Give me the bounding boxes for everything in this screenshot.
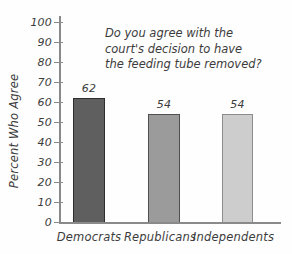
y-tick-mark: [54, 42, 63, 43]
y-tick-mark: [54, 122, 63, 123]
question-line-3: the feeding tube removed?: [105, 57, 262, 73]
y-tick-label: 100: [18, 16, 52, 29]
y-tick-label: 80: [18, 56, 52, 69]
bar-value-label: 62: [82, 82, 96, 95]
question-line-2: court's decision to have: [105, 42, 262, 58]
bar-value-label: 54: [157, 98, 171, 111]
x-category-label: Democrats: [57, 230, 122, 244]
y-tick-mark: [54, 102, 63, 103]
y-tick-mark: [54, 162, 63, 163]
y-tick-label: 30: [18, 156, 52, 169]
y-tick-label: 60: [18, 96, 52, 109]
chart-question: Do you agree with the court's decision t…: [105, 26, 262, 73]
y-tick-label: 70: [18, 76, 52, 89]
y-tick-mark: [54, 82, 63, 83]
x-category-label: Republicans: [124, 230, 196, 244]
y-tick-label: 0: [18, 216, 52, 229]
y-axis-title: Percent Who Agree: [7, 71, 21, 191]
bar-chart-figure: Percent Who Agree Do you agree with the …: [0, 0, 292, 254]
y-tick-mark: [54, 202, 63, 203]
y-tick-mark: [54, 62, 63, 63]
y-tick-label: 90: [18, 36, 52, 49]
y-tick-mark: [54, 22, 63, 23]
y-tick-label: 40: [18, 136, 52, 149]
y-axis-line: [59, 16, 61, 224]
bar-republicans: [148, 114, 180, 222]
y-tick-label: 50: [18, 116, 52, 129]
bar-independents: [222, 114, 253, 222]
x-category-label: Independents: [193, 230, 274, 244]
y-tick-mark: [54, 222, 63, 223]
y-tick-label: 10: [18, 196, 52, 209]
bar-democrats: [73, 98, 105, 222]
y-tick-mark: [54, 142, 63, 143]
y-tick-mark: [54, 182, 63, 183]
bar-value-label: 54: [230, 98, 244, 111]
question-line-1: Do you agree with the: [105, 26, 262, 42]
y-tick-label: 20: [18, 176, 52, 189]
x-axis-line: [59, 222, 281, 224]
